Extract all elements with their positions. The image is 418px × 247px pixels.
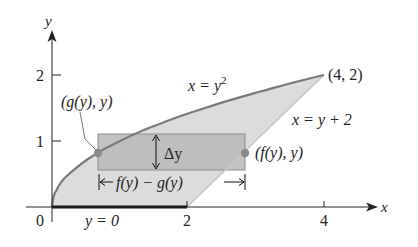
y-tick-label-1: 1 <box>36 133 44 150</box>
y-axis-label: y <box>43 13 52 29</box>
left-point-leader-line <box>80 112 97 151</box>
area-between-curves-diagram: y x 0 2 4 1 2 x = y2 x = y + 2 y = 0 (4,… <box>0 0 418 247</box>
right-point-label: (f(y), y) <box>255 144 303 162</box>
y-tick-label-2: 2 <box>36 67 44 84</box>
corner-point-label: (4, 2) <box>328 66 363 84</box>
bottom-boundary-label: y = 0 <box>83 212 119 230</box>
right-point-dot <box>241 149 249 157</box>
x-tick-label-0: 0 <box>36 212 44 229</box>
line-label: x = y + 2 <box>291 111 352 129</box>
parabola-label-main: x = y <box>187 77 222 95</box>
x-tick-label-2: 2 <box>183 212 191 229</box>
parabola-label: x = y2 <box>187 74 227 95</box>
x-axis-label: x <box>380 199 388 215</box>
x-tick-label-4: 4 <box>320 212 328 229</box>
delta-y-label: Δy <box>164 145 182 163</box>
left-point-dot <box>94 149 102 157</box>
width-label: f(y) − g(y) <box>116 174 183 192</box>
left-point-label: (g(y), y) <box>61 93 113 111</box>
parabola-label-exp: 2 <box>221 74 227 86</box>
